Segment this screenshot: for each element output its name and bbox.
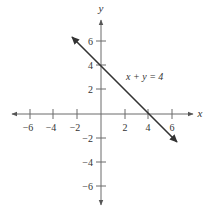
y-tick-label: −6 <box>82 181 93 192</box>
y-tick-label: 6 <box>88 36 93 47</box>
x-tick-label: −4 <box>46 122 57 133</box>
x-tick-labels: −6 −4 −2 2 4 6 <box>23 122 175 133</box>
x-tick-label: −2 <box>70 122 81 133</box>
equation-label: x + y = 4 <box>125 71 163 82</box>
x-tick-label: 6 <box>170 122 175 133</box>
y-axis-label: y <box>98 2 104 14</box>
x-axis-label: x <box>197 107 203 119</box>
y-tick-label: −4 <box>82 157 93 168</box>
coordinate-plane: −6 −4 −2 2 4 6 6 4 2 −2 −4 −6 y x x + y … <box>0 0 208 208</box>
x-tick-label: 2 <box>123 122 128 133</box>
x-tick-label: −6 <box>23 122 34 133</box>
y-tick-label: −2 <box>82 133 93 144</box>
y-tick-label: 4 <box>88 60 93 71</box>
x-tick-label: 4 <box>146 122 151 133</box>
y-tick-label: 2 <box>88 84 93 95</box>
